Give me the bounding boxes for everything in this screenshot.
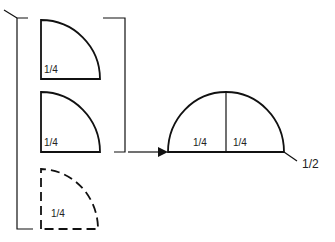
half-circle: 1/4 1/4 — [168, 92, 284, 152]
quarter-circle-1: 1/4 — [41, 20, 100, 79]
quarter-1-label: 1/4 — [44, 64, 58, 75]
quarter-3-label: 1/4 — [51, 208, 65, 219]
fraction-diagram: 1/4 1/4 1/4 1/4 1/4 1/2 — [0, 0, 335, 242]
half-label-leader: 1/2 — [284, 152, 319, 171]
left-bracket — [4, 10, 33, 229]
quarter-2-label: 1/4 — [44, 137, 58, 148]
quarter-circle-2: 1/4 — [41, 92, 100, 152]
half-total-label: 1/2 — [302, 157, 319, 171]
quarter-circle-3-dashed: 1/4 — [41, 169, 98, 229]
right-bracket — [103, 18, 125, 152]
half-left-label: 1/4 — [193, 137, 207, 148]
half-right-label: 1/4 — [233, 137, 247, 148]
arrow-right-icon — [128, 147, 168, 157]
